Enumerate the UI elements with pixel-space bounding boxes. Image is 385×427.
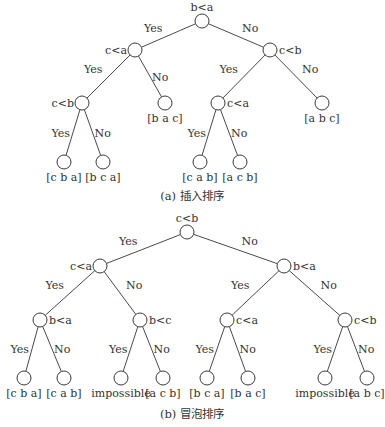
bubble-sort-tree: YesNoYesNoYesNoYesNoYesNoYesNoYesNoc<bc<…: [6, 212, 384, 400]
edge-label-yes: Yes: [219, 63, 239, 76]
leaf-label: [a c b]: [222, 171, 257, 184]
edge-label-no: No: [126, 279, 143, 292]
comparison-label: c<b: [279, 44, 301, 57]
leaf-node: [96, 155, 110, 169]
comparison-label: c<b: [354, 314, 376, 327]
edge-label-yes: Yes: [45, 279, 65, 292]
edge-label-yes: Yes: [195, 343, 215, 356]
comparison-label: b<c: [149, 314, 171, 327]
comparison-label: c<b: [176, 212, 198, 225]
edge-yes: [232, 271, 279, 315]
edge-yes: [223, 55, 265, 98]
edge-label-yes: Yes: [187, 127, 207, 140]
leaf-label: [a b c]: [304, 112, 339, 125]
comparison-label: c<a: [227, 97, 249, 110]
decision-node: [128, 43, 142, 57]
decision-node: [180, 225, 194, 239]
comparison-label: b<a: [49, 314, 72, 327]
comparison-label: b<a: [191, 1, 214, 14]
leaf-node: [318, 371, 332, 385]
comparison-label: c<b: [52, 97, 74, 110]
edge-label-no: No: [231, 127, 248, 140]
edge-label-yes: Yes: [10, 343, 30, 356]
leaf-label: impossible: [295, 387, 355, 400]
decision-node: [133, 313, 147, 327]
leaf-node: [315, 96, 329, 110]
edge-label-yes: Yes: [230, 279, 250, 292]
edge-yes: [45, 271, 95, 316]
leaf-node: [200, 371, 214, 385]
leaf-node: [158, 96, 172, 110]
leaf-node: [17, 371, 31, 385]
decision-node: [93, 259, 107, 273]
edge-yes: [87, 55, 130, 98]
leaf-node: [233, 155, 247, 169]
insertion-sort-tree: YesNoYesNoYesNoYesNoYesNob<ac<ac<bc<b[b …: [46, 1, 339, 184]
leaf-label: [c a b]: [182, 171, 217, 184]
decision-node: [33, 313, 47, 327]
edge-label-no: No: [154, 343, 171, 356]
leaf-node: [57, 371, 71, 385]
edge-no: [275, 55, 317, 98]
decision-node: [263, 43, 277, 57]
decision-node: [277, 259, 291, 273]
edge-no: [194, 234, 278, 263]
edge-label-no: No: [302, 63, 319, 76]
edge-label-no: No: [152, 71, 169, 84]
edge-label-no: No: [54, 343, 71, 356]
edge-label-no: No: [242, 235, 259, 248]
comparison-label: b<a: [293, 260, 316, 273]
decision-node: [195, 14, 209, 28]
leaf-label: [b c a]: [85, 171, 120, 184]
edge-label-yes: Yes: [118, 235, 138, 248]
leaf-node: [360, 371, 374, 385]
leaf-label: [a b c]: [349, 387, 384, 400]
decision-node: [220, 313, 234, 327]
leaf-label: [a c b]: [145, 387, 180, 400]
edge-label-no: No: [95, 127, 112, 140]
leaf-node: [241, 371, 255, 385]
caption-bubble-sort: (b) 冒泡排序: [160, 407, 224, 421]
leaf-node: [193, 155, 207, 169]
comparison-label: c<a: [236, 314, 258, 327]
edge-label-yes: Yes: [143, 22, 163, 35]
edge-no: [289, 271, 340, 316]
decision-trees-svg: YesNoYesNoYesNoYesNoYesNob<ac<ac<bc<b[b …: [0, 0, 385, 427]
leaf-label: [c a b]: [46, 387, 81, 400]
caption-insertion-sort: (a) 插入排序: [160, 189, 224, 203]
decision-node: [211, 96, 225, 110]
edge-label-yes: Yes: [83, 63, 103, 76]
leaf-node: [156, 371, 170, 385]
leaf-label: [b a c]: [147, 112, 182, 125]
edge-label-yes: Yes: [51, 127, 71, 140]
edge-label-no: No: [321, 279, 338, 292]
decision-node: [75, 96, 89, 110]
leaf-label: impossible: [91, 387, 151, 400]
edge-label-yes: Yes: [108, 343, 128, 356]
comparison-label: c<a: [105, 44, 127, 57]
leaf-label: [b c a]: [189, 387, 224, 400]
leaf-node: [114, 371, 128, 385]
edge-label-no: No: [358, 343, 375, 356]
decision-tree-figure: YesNoYesNoYesNoYesNoYesNob<ac<ac<bc<b[b …: [0, 0, 385, 427]
leaf-node: [57, 155, 71, 169]
comparison-label: c<a: [70, 260, 92, 273]
edge-label-yes: Yes: [313, 343, 333, 356]
leaf-label: [c b a]: [46, 171, 81, 184]
decision-node: [338, 313, 352, 327]
edge-label-no: No: [240, 343, 257, 356]
leaf-label: [b a c]: [230, 387, 265, 400]
edge-yes: [107, 235, 181, 264]
edge-label-no: No: [242, 22, 259, 35]
leaf-label: [c b a]: [6, 387, 41, 400]
